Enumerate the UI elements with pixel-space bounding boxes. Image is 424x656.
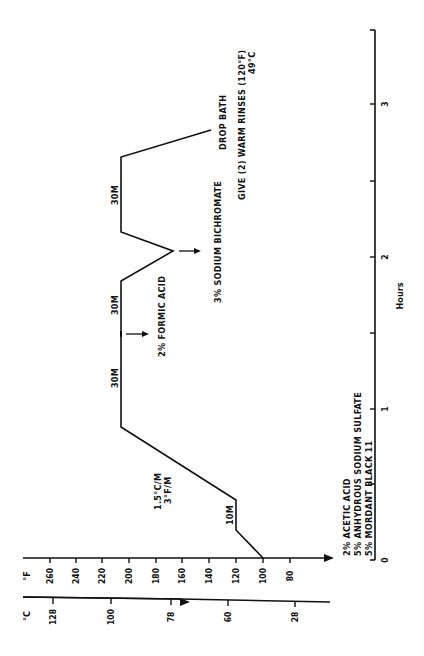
hours-axis-label: Hours <box>395 282 405 309</box>
dyeing-temperature-chart: 0 1 2 3 Hours 260 240 220 200 180 160 14… <box>0 0 424 656</box>
f-axis-label: °F <box>22 571 32 581</box>
annotation-formic-acid: 2% FORMIC ACID <box>157 276 167 357</box>
annotation-hold-30m-3: 30M <box>110 185 120 205</box>
annotation-hold-10m: 10M <box>225 505 235 525</box>
c-tick-100: 100 <box>106 609 116 625</box>
fahrenheit-axis: 260 240 220 200 180 160 140 120 100 80 °… <box>22 554 334 584</box>
f-tick-140: 140 <box>204 568 214 584</box>
f-tick-200: 200 <box>124 568 134 584</box>
bichromate-arrow <box>179 248 201 254</box>
annotation-drop-bath: DROP BATH <box>218 95 228 150</box>
hours-tick-1: 1 <box>380 406 390 411</box>
hours-tick-0: 0 <box>380 557 390 562</box>
f-tick-220: 220 <box>97 568 107 584</box>
c-tick-128: 128 <box>48 609 58 625</box>
annotation-warm-rinses: GIVE (2) WARM RINSES (120°F) <box>237 50 247 200</box>
f-tick-160: 160 <box>177 568 187 584</box>
f-tick-80: 80 <box>285 571 295 582</box>
hours-tick-3: 3 <box>380 101 390 106</box>
annotation-hold-30m-1: 30M <box>110 368 120 388</box>
c-axis-label: °C <box>22 611 32 621</box>
annotation-sodium-bichromate: 3% SODIUM BICHROMATE <box>213 181 223 303</box>
annotation-rate-f: 3°F/M <box>163 476 173 504</box>
annotation-rate-c: 1.5°C/M <box>153 473 163 510</box>
annotations: 2% ACETIC ACID 5% ANHYDROUS SODIUM SULFA… <box>110 50 374 556</box>
f-tick-240: 240 <box>71 568 81 584</box>
c-tick-78: 78 <box>166 612 176 623</box>
c-tick-28: 28 <box>290 612 300 623</box>
annotation-rinse-celsius: 49°C <box>247 52 257 74</box>
annotation-hold-30m-2: 30M <box>110 295 120 315</box>
celsius-axis: 128 100 78 60 28 °C <box>22 597 330 625</box>
hours-tick-2: 2 <box>380 254 390 259</box>
f-tick-260: 260 <box>45 568 55 584</box>
f-tick-100: 100 <box>258 568 268 584</box>
f-tick-180: 180 <box>151 568 161 584</box>
f-tick-120: 120 <box>231 568 241 584</box>
hours-axis: 0 1 2 3 Hours <box>370 30 405 563</box>
annotation-sodium-sulfate: 5% ANHYDROUS SODIUM SULFATE <box>353 392 363 556</box>
c-tick-60: 60 <box>223 612 233 623</box>
annotation-acetic-acid: 2% ACETIC ACID <box>342 478 352 556</box>
formic-acid-marker <box>121 331 149 337</box>
annotation-mordant-black: 5% MORDANT BLACK 11 <box>364 440 374 556</box>
